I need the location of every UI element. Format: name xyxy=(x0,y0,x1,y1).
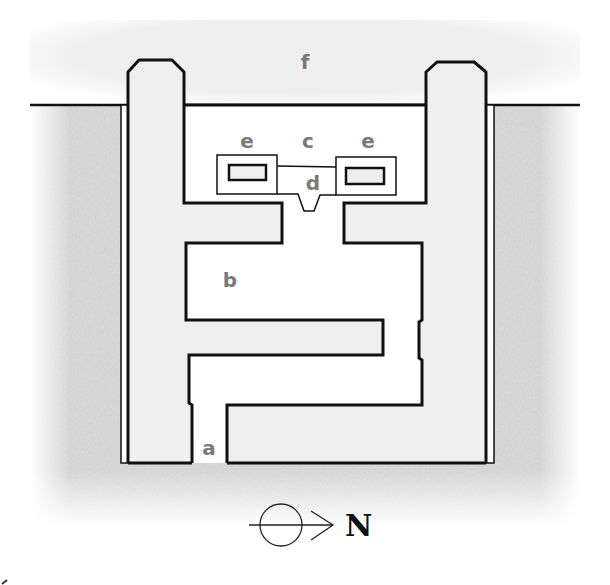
basin-e-right xyxy=(346,168,384,184)
basin-e-left xyxy=(229,165,266,180)
labyrinth-plan: f e c e d b a N xyxy=(0,0,610,585)
label-b: b xyxy=(223,268,237,292)
label-d: d xyxy=(306,171,320,195)
edge-mark xyxy=(2,580,7,584)
label-e-left: e xyxy=(240,129,254,153)
label-f: f xyxy=(301,50,310,74)
north-label: N xyxy=(345,508,372,543)
label-e-right: e xyxy=(361,129,375,153)
label-c: c xyxy=(302,129,314,153)
label-a: a xyxy=(202,436,216,460)
